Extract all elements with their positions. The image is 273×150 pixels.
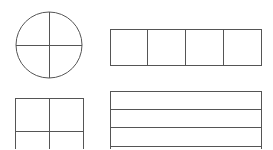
shapes-diagram — [0, 0, 273, 149]
striped-rectangle — [110, 92, 262, 150]
four-column-rectangle — [111, 29, 262, 66]
striped-rectangle-outline — [111, 92, 262, 150]
circle-quadrants — [16, 12, 82, 78]
square-quadrants — [15, 98, 84, 149]
